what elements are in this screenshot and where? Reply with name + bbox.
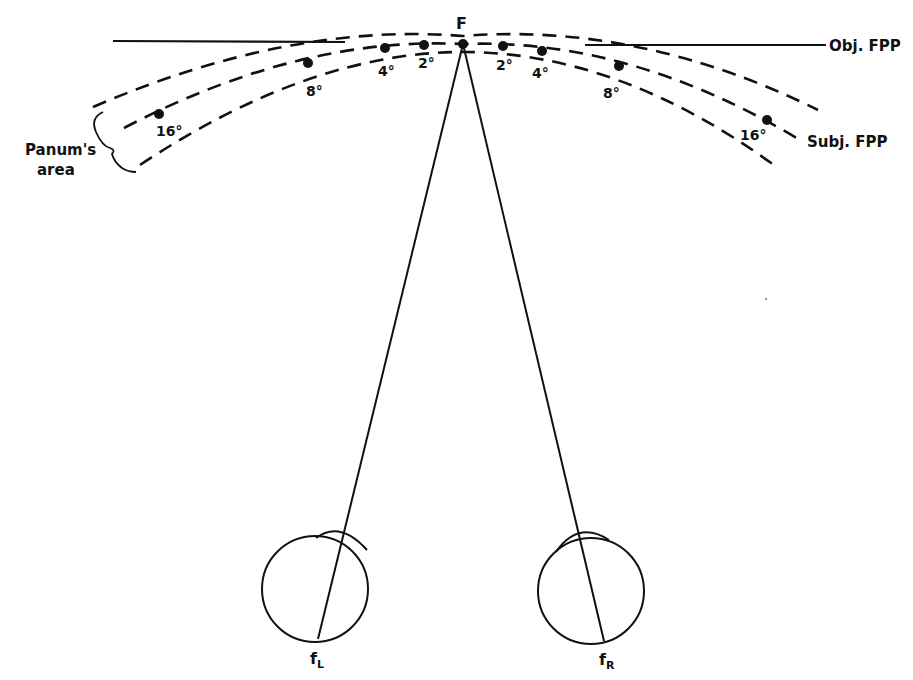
point-left-2deg xyxy=(419,40,429,50)
point-left-8deg xyxy=(303,58,313,68)
label-left-4deg: 4° xyxy=(378,63,395,79)
objective-fpp-label: Obj. FPP xyxy=(829,37,901,55)
label-right-2deg: 2° xyxy=(496,57,513,73)
horopter-diagram: F 2° 4° 8° 16° 2° 4° 8° 16° Obj. FPP Sub… xyxy=(0,0,913,680)
fovea-left-label: fL xyxy=(310,649,324,671)
subjective-fpp-curve xyxy=(124,43,800,140)
fovea-right-sub: R xyxy=(606,659,615,672)
fixation-point-dot xyxy=(458,39,468,49)
left-visual-axis xyxy=(318,44,463,639)
panums-area-brace xyxy=(94,112,136,172)
panums-area-label-line1: Panum's xyxy=(25,141,96,159)
fovea-right-label: fR xyxy=(599,650,615,672)
label-right-4deg: 4° xyxy=(532,65,549,81)
right-eccentricity-points xyxy=(498,41,772,125)
point-right-4deg xyxy=(537,46,547,56)
label-left-16deg: 16° xyxy=(156,123,182,139)
point-right-16deg xyxy=(762,115,772,125)
left-eyeball xyxy=(262,536,368,642)
left-eccentricity-points xyxy=(154,40,429,119)
visual-axes xyxy=(318,44,604,641)
panums-area-label-line2: area xyxy=(37,161,75,179)
left-eye xyxy=(262,531,368,642)
panums-area-curves xyxy=(93,34,818,168)
subjective-fpp-label: Subj. FPP xyxy=(807,133,888,151)
label-right-8deg: 8° xyxy=(603,85,620,101)
label-left-2deg: 2° xyxy=(418,55,435,71)
objective-fpp-line xyxy=(113,41,826,45)
right-visual-axis xyxy=(463,44,604,641)
point-right-8deg xyxy=(614,61,624,71)
label-right-16deg: 16° xyxy=(740,127,766,143)
point-left-16deg xyxy=(154,109,164,119)
right-eyeball xyxy=(538,538,644,644)
panum-lower-boundary xyxy=(140,52,778,168)
point-left-4deg xyxy=(380,43,390,53)
point-right-2deg xyxy=(498,41,508,51)
fixation-point-label: F xyxy=(456,14,467,33)
label-left-8deg: 8° xyxy=(306,83,323,99)
speck-mark xyxy=(765,298,767,300)
fovea-left-sub: L xyxy=(317,658,324,671)
